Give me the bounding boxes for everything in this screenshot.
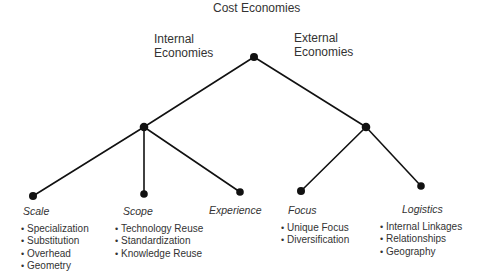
list-item: Specialization	[21, 223, 89, 235]
focus-label: Focus	[288, 204, 317, 216]
edge-internal-scale	[33, 127, 144, 196]
logistics-label: Logistics	[402, 203, 443, 215]
experience-label: Experience	[209, 204, 262, 216]
list-item: Technology Reuse	[115, 223, 203, 235]
list-item: Geography	[380, 246, 462, 258]
external-label-line1: External	[294, 31, 353, 45]
edge-internal-experience	[144, 127, 240, 192]
external-label-line2: Economies	[294, 45, 353, 59]
scope-node	[140, 190, 148, 198]
experience-node	[236, 188, 244, 196]
list-item: Standardization	[115, 235, 203, 247]
internal-label-line1: Internal	[154, 32, 213, 46]
list-item: Internal Linkages	[380, 221, 462, 233]
root-node	[250, 53, 258, 61]
external-node	[362, 123, 371, 132]
edge-root-internal	[144, 57, 254, 127]
diagram-title: Cost Economies	[213, 1, 300, 15]
list-item: Substitution	[21, 235, 89, 247]
edge-external-focus	[301, 127, 366, 191]
focus-node	[297, 187, 305, 195]
edge-external-logistics	[366, 127, 421, 186]
scope-bullet-list: Technology Reuse Standardization Knowled…	[115, 223, 203, 260]
internal-economies-label: Internal Economies	[154, 32, 213, 60]
internal-node	[140, 123, 149, 132]
list-item: Relationships	[380, 233, 462, 245]
internal-label-line2: Economies	[154, 46, 213, 60]
list-item: Knowledge Reuse	[115, 248, 203, 260]
list-item: Diversification	[281, 234, 349, 246]
scope-label: Scope	[123, 205, 153, 217]
logistics-node	[417, 182, 425, 190]
scale-label: Scale	[23, 205, 49, 217]
edge-root-external	[254, 57, 366, 127]
logistics-bullet-list: Internal Linkages Relationships Geograph…	[380, 221, 462, 258]
list-item: Unique Focus	[281, 222, 349, 234]
list-item: Overhead	[21, 248, 89, 260]
scale-bullet-list: Specialization Substitution Overhead Geo…	[21, 223, 89, 272]
external-economies-label: External Economies	[294, 31, 353, 59]
scale-node	[29, 192, 37, 200]
list-item: Geometry	[21, 260, 89, 272]
focus-bullet-list: Unique Focus Diversification	[281, 222, 349, 247]
cost-economies-tree-diagram: Cost Economies Internal Economies Extern…	[0, 0, 487, 280]
